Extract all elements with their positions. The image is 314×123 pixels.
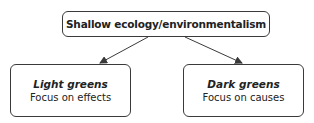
light-greens-subtitle: Focus on effects xyxy=(30,91,111,104)
light-greens-title: Light greens xyxy=(33,78,108,91)
light-greens-node: Light greens Focus on effects xyxy=(10,64,131,117)
arrow-to-dark-greens xyxy=(185,37,242,63)
arrow-to-light-greens xyxy=(100,37,148,63)
dark-greens-subtitle: Focus on causes xyxy=(203,91,285,104)
root-node: Shallow ecology/environmentalism xyxy=(62,11,270,37)
dark-greens-title: Dark greens xyxy=(207,78,279,91)
dark-greens-node: Dark greens Focus on causes xyxy=(183,64,304,117)
root-node-label: Shallow ecology/environmentalism xyxy=(66,18,266,30)
